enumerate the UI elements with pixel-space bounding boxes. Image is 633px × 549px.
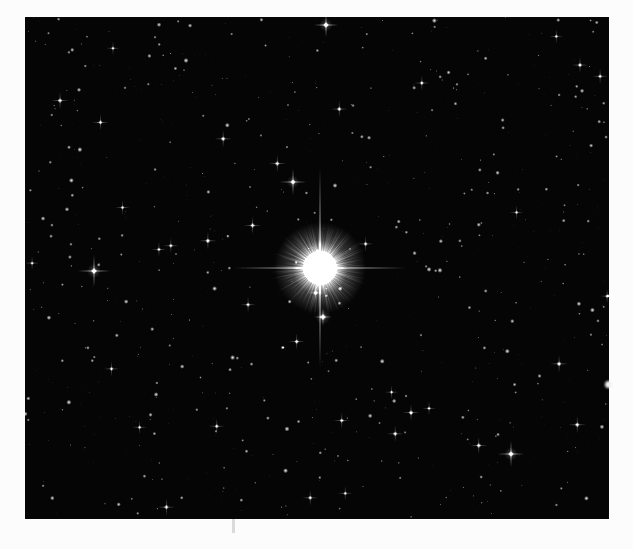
star-field-canvas — [25, 17, 609, 519]
sky-field — [25, 17, 609, 519]
plate-edge-mark-icon — [232, 519, 235, 533]
photograph-page — [0, 0, 633, 549]
plate-edge-notch-icon — [605, 381, 612, 388]
